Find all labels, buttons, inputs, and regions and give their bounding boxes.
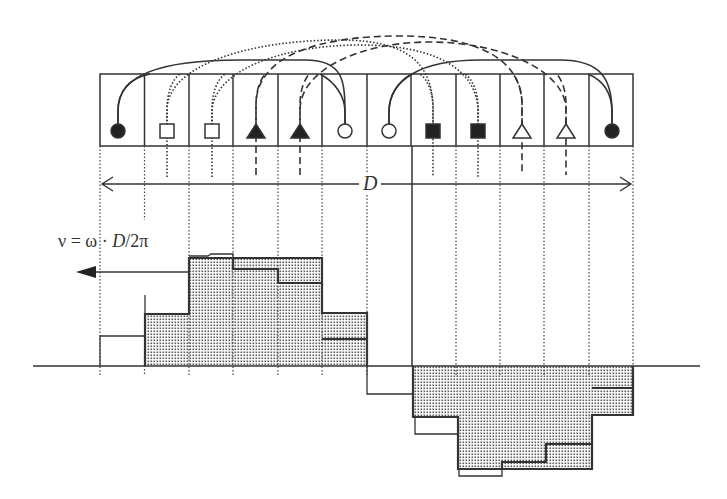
- velocity-label: ν = ω · D/2π: [58, 231, 148, 252]
- connection-arcs: [118, 36, 612, 177]
- velocity-label-suffix: /2π: [125, 231, 148, 251]
- open-square-icon: [205, 124, 219, 138]
- open-circle-icon: [382, 124, 396, 138]
- filled-square-icon: [426, 124, 440, 138]
- open-circle-icon: [338, 124, 352, 138]
- open-triangle-icon: [557, 124, 575, 138]
- velocity-label-prefix: ν = ω ·: [58, 231, 112, 251]
- lower-histogram: [367, 366, 633, 476]
- span-label: D: [359, 172, 381, 195]
- cell-symbols: [111, 124, 619, 138]
- filled-circle-icon: [111, 124, 125, 138]
- filled-square-icon: [471, 124, 485, 138]
- cell-strip: [100, 74, 633, 146]
- open-triangle-icon: [513, 124, 531, 138]
- open-square-icon: [160, 124, 174, 138]
- velocity-arrow: [76, 266, 189, 278]
- velocity-label-d: D: [112, 231, 125, 251]
- arrowhead-left-icon: [76, 266, 96, 278]
- filled-triangle-icon: [247, 124, 265, 138]
- solid-arc-0-11: [118, 60, 345, 125]
- filled-triangle-icon: [291, 124, 309, 138]
- filled-circle-icon: [605, 124, 619, 138]
